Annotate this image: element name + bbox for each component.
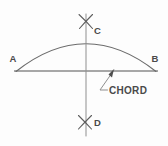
label-point-d: D [94, 117, 101, 128]
construction-diagram: A B C D CHORD [0, 0, 168, 146]
label-point-a: A [10, 53, 17, 64]
arc-intersection-mark-bottom [79, 116, 92, 130]
label-chord: CHORD [109, 85, 147, 96]
label-point-b: B [152, 53, 159, 64]
diagram-canvas: A B C D CHORD [0, 0, 168, 146]
label-point-c: C [94, 25, 101, 36]
